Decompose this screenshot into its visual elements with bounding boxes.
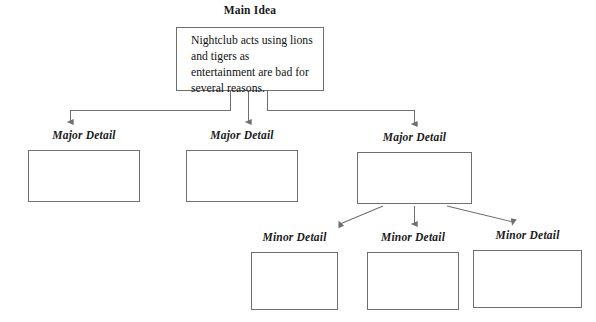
concept-map-diagram: Main Idea Nightclub acts using lions and…: [0, 0, 596, 322]
major-detail-3-label: Major Detail: [357, 132, 472, 144]
major-detail-1-label: Major Detail: [28, 130, 140, 142]
major-detail-3-box[interactable]: [357, 152, 472, 204]
major-detail-2-label: Major Detail: [186, 130, 298, 142]
minor-detail-2-box[interactable]: [367, 252, 459, 310]
minor-detail-3-node[interactable]: Minor Detail: [473, 230, 582, 310]
minor-detail-1-box[interactable]: [251, 252, 338, 310]
minor-detail-2-text: [368, 253, 458, 309]
connector-main-to-major-3: [268, 91, 415, 124]
major-detail-1-box[interactable]: [28, 150, 140, 202]
main-idea-box[interactable]: Nightclub acts using lions and tigers as…: [176, 27, 324, 91]
main-idea-label: Main Idea: [176, 5, 324, 17]
minor-detail-3-box[interactable]: [473, 250, 582, 308]
major-detail-2-box[interactable]: [186, 150, 298, 202]
minor-detail-2-node[interactable]: Minor Detail: [367, 232, 459, 310]
minor-detail-2-label: Minor Detail: [367, 232, 459, 244]
major-detail-1-node[interactable]: Major Detail: [28, 130, 140, 202]
major-detail-1-text: [29, 151, 139, 201]
minor-detail-3-label: Minor Detail: [473, 230, 582, 242]
minor-detail-3-text: [474, 251, 581, 307]
connector-major-3-to-minor-1: [340, 206, 383, 224]
major-detail-2-text: [187, 151, 297, 201]
connector-major-3-to-minor-3: [447, 206, 513, 222]
minor-detail-1-text: [252, 253, 337, 309]
minor-detail-1-node[interactable]: Minor Detail: [251, 232, 338, 310]
major-detail-3-text: [358, 153, 471, 203]
main-idea-text: Nightclub acts using lions and tigers as…: [177, 28, 323, 90]
minor-detail-1-label: Minor Detail: [251, 232, 338, 244]
main-idea-node[interactable]: Main Idea Nightclub acts using lions and…: [176, 5, 324, 91]
major-detail-3-node[interactable]: Major Detail: [357, 132, 472, 206]
major-detail-2-node[interactable]: Major Detail: [186, 130, 298, 202]
